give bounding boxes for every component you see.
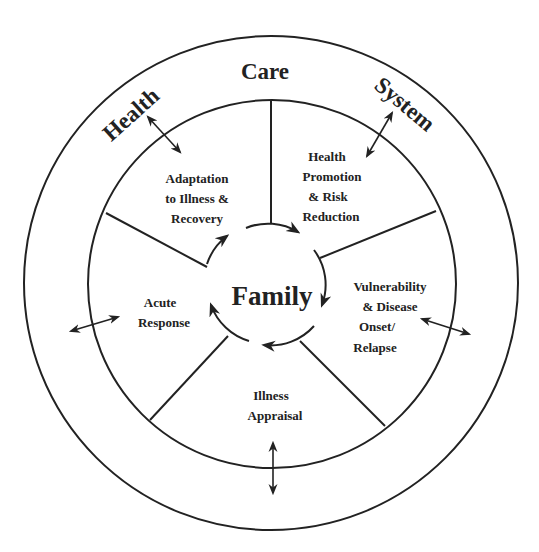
segment-label-line: Illness bbox=[253, 388, 288, 403]
double-arrow-upper-left bbox=[148, 117, 180, 152]
segment-label-line: Relapse bbox=[353, 340, 397, 355]
outer-label-system: System bbox=[370, 72, 440, 136]
outer-label-care: Care bbox=[241, 59, 289, 84]
family-health-care-diagram: Health Care System Family Adaptation to … bbox=[0, 0, 539, 552]
segment-label-line: Recovery bbox=[171, 211, 223, 226]
center-label-family: Family bbox=[232, 281, 313, 311]
outer-label-health: Health bbox=[98, 83, 164, 146]
segment-label-line: Promotion bbox=[303, 169, 363, 184]
segment-label-line: Appraisal bbox=[248, 408, 303, 423]
double-arrow-right bbox=[422, 319, 469, 334]
segment-label-line: Adaptation bbox=[166, 171, 230, 186]
segment-label-line: Health bbox=[308, 149, 346, 164]
segment-label-line: to Illness & bbox=[165, 191, 229, 206]
cycle-arrow-right bbox=[314, 250, 326, 305]
cycle-arrow-top bbox=[246, 224, 298, 232]
segment-vulnerability: Vulnerability & Disease Onset/ Relapse bbox=[353, 279, 427, 355]
segment-acute-response: Acute Response bbox=[138, 295, 190, 330]
segment-label-line: Acute bbox=[144, 295, 177, 310]
segment-illness-appraisal: Illness Appraisal bbox=[248, 388, 303, 423]
segment-label-line: & Disease bbox=[362, 299, 417, 314]
segment-label-line: & Risk bbox=[308, 189, 348, 204]
segment-label-line: Onset/ bbox=[359, 319, 396, 334]
segment-label-line: Reduction bbox=[302, 209, 360, 224]
divider-lower-left bbox=[150, 336, 228, 420]
segment-health-promotion: Health Promotion & Risk Reduction bbox=[302, 149, 362, 224]
segment-label-line: Response bbox=[138, 315, 190, 330]
cycle-arrow-left bbox=[207, 236, 227, 264]
segment-label-line: Vulnerability bbox=[353, 279, 427, 294]
segment-adaptation: Adaptation to Illness & Recovery bbox=[165, 171, 229, 226]
cycle-arrow-bottom bbox=[264, 326, 314, 345]
double-arrow-upper-right bbox=[367, 113, 392, 156]
